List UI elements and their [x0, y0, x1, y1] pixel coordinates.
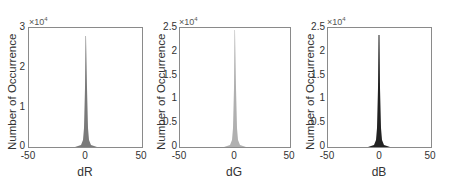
y-tick: 2.5 — [153, 22, 177, 32]
histogram-dG — [180, 28, 290, 147]
x-axis-label: dG — [214, 165, 254, 179]
histogram-dB — [328, 28, 431, 147]
y-tick: 1.5 — [301, 70, 325, 80]
histogram-panel-dR: Number of Occurrence ×104 3 2 1 0 -50 0 … — [0, 0, 150, 189]
y-tick: 0.5 — [153, 117, 177, 127]
x-axis-label: dB — [359, 165, 399, 179]
x-tick: -50 — [167, 151, 191, 161]
y-tick: 1 — [301, 93, 325, 103]
x-tick: 0 — [367, 151, 391, 161]
y-exponent: ×104 — [179, 15, 198, 27]
y-exponent: ×104 — [29, 15, 48, 27]
histogram-panel-dB: Number of Occurrence ×104 2.5 2 1.5 1 0.… — [300, 0, 450, 189]
x-tick: 50 — [418, 151, 442, 161]
x-tick: -50 — [315, 151, 339, 161]
histogram-panel-dG: Number of Occurrence ×104 2.5 2 1.5 1 0.… — [150, 0, 300, 189]
y-tick: 2 — [1, 62, 25, 72]
y-tick: 2.5 — [301, 22, 325, 32]
y-tick: 1 — [1, 102, 25, 112]
plot-area — [327, 27, 432, 148]
y-exponent: ×104 — [327, 15, 346, 27]
x-tick: 0 — [73, 151, 97, 161]
y-tick: 1.5 — [153, 70, 177, 80]
y-tick: 0.5 — [301, 117, 325, 127]
y-tick: 2 — [153, 46, 177, 56]
histogram-dR — [29, 28, 142, 147]
y-tick: 1 — [153, 93, 177, 103]
y-axis-label: Number of Occurrence — [6, 34, 18, 150]
plot-area — [179, 27, 291, 148]
plot-area — [28, 27, 143, 148]
y-tick: 3 — [1, 22, 25, 32]
x-tick: 50 — [277, 151, 301, 161]
x-axis-label: dR — [65, 165, 105, 179]
x-tick: -50 — [16, 151, 40, 161]
y-tick: 2 — [301, 46, 325, 56]
x-tick: 0 — [222, 151, 246, 161]
